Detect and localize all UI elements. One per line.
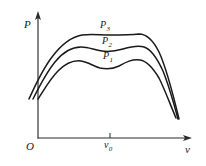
nu0-subscript: 0	[109, 145, 113, 153]
curve-p1	[38, 60, 176, 118]
p2-subscript: 2	[108, 41, 112, 49]
figure-container: P ν O ν0 P3 P2 P1	[0, 0, 206, 166]
y-axis-label: P	[24, 19, 31, 30]
nu0-base: ν	[104, 139, 108, 150]
x-axis-label: ν	[185, 144, 190, 155]
curve-label-p1: P1	[103, 51, 113, 61]
curve-label-p2: P2	[102, 36, 112, 46]
curve-p3	[29, 34, 179, 119]
x-axis-tick-label-nu0: ν0	[104, 140, 112, 150]
origin-label: O	[26, 141, 34, 152]
curve-label-p3: P3	[100, 20, 110, 30]
p1-subscript: 1	[109, 56, 113, 64]
p3-subscript: 3	[106, 25, 110, 33]
